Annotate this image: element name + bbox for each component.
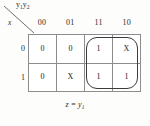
column-variable-y1-sub: 1 xyxy=(20,4,23,10)
column-variable-y2-sub: 2 xyxy=(27,4,30,10)
row-header-0: 0 xyxy=(8,34,28,63)
kmap-column-headers: 00 01 11 10 xyxy=(28,16,141,30)
kmap-row-0: 0 0 1 X xyxy=(29,35,140,64)
figure-caption: z = y1 xyxy=(0,101,150,109)
column-header-00: 00 xyxy=(28,16,56,30)
kmap-cell-r0c0: 0 xyxy=(29,35,57,63)
kmap-cell-r0c1: 0 xyxy=(57,35,85,63)
kmap-cell-r0c2: 1 xyxy=(85,35,113,63)
caption-operator: = xyxy=(71,100,76,109)
column-header-01: 01 xyxy=(56,16,84,30)
kmap-cell-r1c2: 1 xyxy=(85,64,113,92)
caption-lhs: z xyxy=(66,100,69,109)
kmap-row-1: 0 X 1 1 xyxy=(29,64,140,92)
kmap-cell-r1c0: 0 xyxy=(29,64,57,92)
column-variable-label: y1y2 xyxy=(16,1,30,9)
row-header-1: 1 xyxy=(8,63,28,92)
kmap-cell-r0c3: X xyxy=(113,35,140,63)
column-header-10: 10 xyxy=(113,16,141,30)
kmap-cell-r1c3: 1 xyxy=(113,64,140,92)
kmap-cell-r1c1: X xyxy=(57,64,85,92)
caption-rhs-sub: 1 xyxy=(82,104,85,110)
column-header-11: 11 xyxy=(85,16,113,30)
row-variable-label: x xyxy=(8,19,11,27)
karnaugh-map-figure: y1y2 x 00 01 11 10 0 1 0 0 1 X 0 X 1 1 z xyxy=(0,0,150,126)
kmap-row-headers: 0 1 xyxy=(8,34,28,92)
kmap-grid: 0 0 1 X 0 X 1 1 xyxy=(28,34,141,92)
